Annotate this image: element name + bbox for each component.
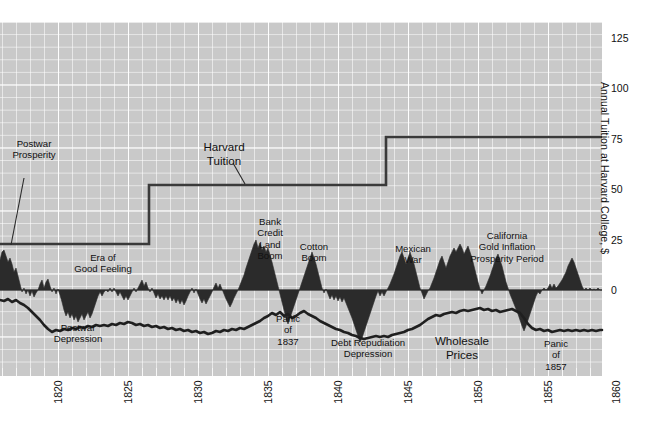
x-tick-1860: 1860 (610, 377, 622, 407)
annotation-california-gold-inflation: California Gold Inflation Prosperity Per… (455, 230, 559, 264)
harvard-tuition-step-line (0, 137, 602, 244)
annotation-panic-of-1857: Panic of 1857 (536, 338, 576, 372)
annotation-postwar-prosperity: Postwar Prosperity (2, 138, 66, 161)
leader-postwar-prosperity (11, 178, 24, 245)
y-axis-title: Annual Tuition at Harvard College, $ (599, 82, 611, 254)
x-tick-1845: 1845 (402, 377, 414, 407)
y-tick-0: 0 (611, 284, 617, 296)
annotation-wholesale-prices: Wholesale Prices (418, 334, 506, 361)
annotation-debt-repudiation-depression: Debt Repudiation Depression (318, 337, 418, 360)
y-tick-125: 125 (611, 32, 629, 44)
annotation-panic-of-1837: Panic of 1837 (268, 313, 308, 347)
y-tick-75: 75 (611, 133, 623, 145)
annotation-postwar-depression: Postwar Depression (38, 322, 118, 345)
x-tick-1855: 1855 (542, 377, 554, 407)
annotation-era-of-good-feeling: Era of Good Feeling (63, 252, 143, 275)
x-tick-1830: 1830 (192, 377, 204, 407)
y-tick-50: 50 (611, 183, 623, 195)
y-tick-100: 100 (611, 82, 629, 94)
annotation-mexican-war: Mexican War (388, 243, 438, 266)
annotation-harvard-tuition: Harvard Tuition (184, 140, 264, 167)
x-tick-1835: 1835 (262, 377, 274, 407)
x-tick-1825: 1825 (122, 377, 134, 407)
x-tick-1820: 1820 (52, 377, 64, 407)
annotation-cotton-boom: Cotton Boom (292, 241, 336, 264)
y-tick-25: 25 (611, 234, 623, 246)
annotation-leader-lines (11, 163, 245, 245)
annotation-bank-credit-land-boom: Bank Credit Land Boom (248, 216, 292, 262)
chart-canvas: 125 100 75 50 25 0 Annual Tuition at Har… (0, 0, 653, 425)
x-tick-1850: 1850 (472, 377, 484, 407)
x-tick-1840: 1840 (332, 377, 344, 407)
